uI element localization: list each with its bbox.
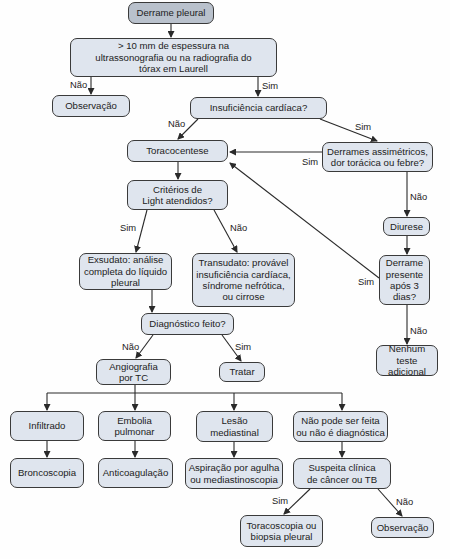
node-observacao-1: Observação <box>52 95 130 117</box>
node-espessura: > 10 mm de espessura na ultrassonografia… <box>70 38 277 77</box>
node-observacao-2: Observação <box>371 517 434 538</box>
label-nao: Não <box>122 341 139 352</box>
node-derrames-assimetricos: Derrames assimétricos, dor torácica ou f… <box>322 142 433 172</box>
node-tratar: Tratar <box>219 362 265 382</box>
label-sim: Sim <box>235 341 251 352</box>
label-sim: Sim <box>120 222 136 233</box>
label-sim: Sim <box>302 156 318 167</box>
node-diurese: Diurese <box>383 217 430 236</box>
node-broncoscopia: Broncoscopia <box>10 458 84 488</box>
label-nao: Não <box>70 79 87 90</box>
node-lesao-mediastinal: Lesão mediastinal <box>196 411 273 442</box>
label-nao: Não <box>168 118 185 129</box>
node-exsudato: Exsudato: análise completa do líquido pl… <box>79 253 172 290</box>
node-angiografia: Angiografia por TC <box>96 359 171 385</box>
node-embolia-pulmonar: Embolia pulmonar <box>98 411 171 441</box>
node-anticoagulacao: Anticoagulação <box>98 458 173 488</box>
node-transudato: Transudato: provável insuficiência cardí… <box>192 253 295 307</box>
label-nao: Não <box>396 496 413 507</box>
label-nao: Não <box>230 222 247 233</box>
node-criterios-light: Critérios de Light atendidos? <box>127 180 228 210</box>
label-sim: Sim <box>358 276 374 287</box>
label-sim: Sim <box>272 495 288 506</box>
pleural-effusion-flowchart: Derrame pleural > 10 mm de espessura na … <box>0 0 450 559</box>
node-suspeita-cancer-tb: Suspeita clínica de câncer ou TB <box>293 458 391 489</box>
label-sim: Sim <box>355 121 371 132</box>
node-insuficiencia-cardiaca: Insuficiência cardíaca? <box>190 97 327 119</box>
node-nenhum-teste: Nenhum teste adicional <box>376 345 438 376</box>
node-infiltrado: Infiltrado <box>10 411 84 441</box>
node-nao-diagnostica: Não pode ser feita ou não é diagnóstica <box>293 411 388 442</box>
node-toracoscopia: Toracoscopia ou biopsia pleural <box>240 515 323 547</box>
node-aspiracao: Aspiração por agulha ou mediastinoscopia <box>185 458 283 489</box>
label-nao: Não <box>410 325 427 336</box>
label-sim: Sim <box>262 80 278 91</box>
node-derrame-3-dias: Derrame presente após 3 dias? <box>379 255 430 305</box>
node-diagnostico-feito: Diagnóstico feito? <box>141 313 234 335</box>
label-nao: Não <box>410 191 427 202</box>
node-derrame-pleural: Derrame pleural <box>128 2 214 24</box>
node-toracocentese: Toracocentese <box>127 140 228 162</box>
